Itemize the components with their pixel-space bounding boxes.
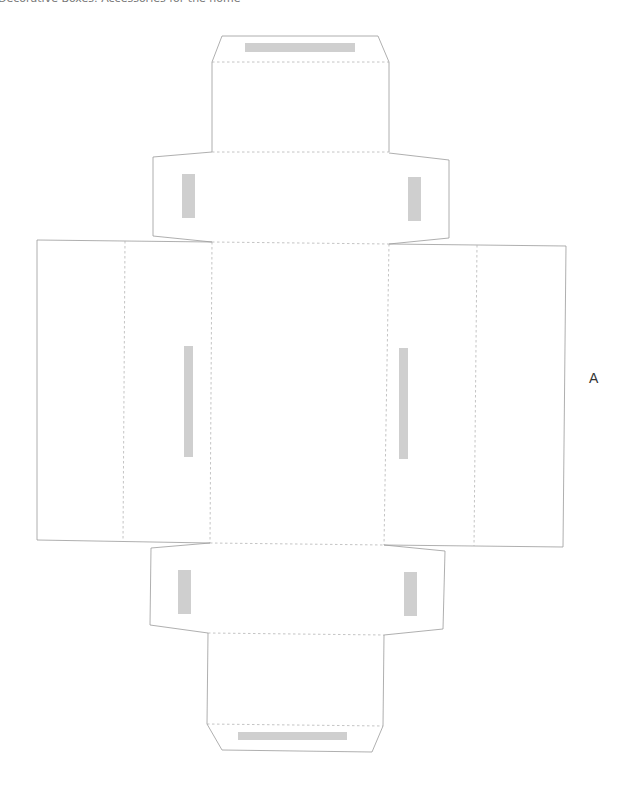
bottom-tuck-glue-strip <box>238 732 347 740</box>
box-dieline <box>0 0 636 793</box>
top-right-glue-strip <box>408 177 421 221</box>
bottom-tuck-fold-line <box>207 724 383 726</box>
base-left-fold-line <box>210 242 212 543</box>
bottom-left-glue-strip <box>178 570 191 614</box>
bottom-right-glue-strip <box>404 572 417 616</box>
base-right-fold-line <box>384 244 389 545</box>
bottom-panel-right-edge <box>383 635 384 726</box>
left-side-fold-line <box>123 241 125 541</box>
right-side-glue-strip <box>399 348 408 459</box>
top-left-glue-strip <box>182 174 195 218</box>
top-tuck-glue-strip <box>245 43 355 52</box>
right-side-fold-line <box>474 245 477 546</box>
bottom-panel-fold-line <box>208 633 384 635</box>
base-bottom-fold-line <box>210 543 384 545</box>
left-side-glue-strip <box>184 346 193 457</box>
base-top-fold-line <box>212 242 389 244</box>
right-side-outline <box>384 244 566 547</box>
bottom-panel-left-edge <box>207 633 208 724</box>
